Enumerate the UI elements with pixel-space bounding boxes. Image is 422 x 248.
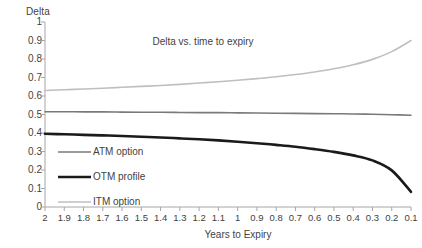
legend-label-itm-option: ITM option xyxy=(93,196,140,207)
series-line-atm-option xyxy=(45,112,411,116)
legend-label-otm-profile: OTM profile xyxy=(93,171,145,182)
legend-label-atm-option: ATM option xyxy=(93,146,143,157)
delta-vs-expiry-chart: Delta Delta vs. time to expiry 00.10.20.… xyxy=(0,0,422,248)
series-line-otm-profile xyxy=(45,134,411,192)
plot-area xyxy=(0,0,422,248)
series-line-itm-option xyxy=(45,41,411,91)
